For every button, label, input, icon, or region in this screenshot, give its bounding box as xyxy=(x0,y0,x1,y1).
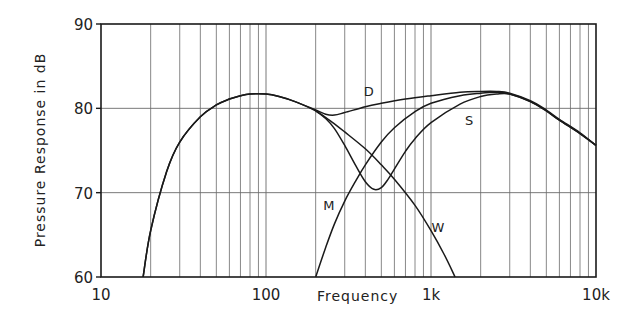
y-tick-labels: 60708090 xyxy=(74,16,93,287)
x-tick-label: 100 xyxy=(252,286,281,304)
y-tick-label: 70 xyxy=(74,185,93,203)
x-tick-label: 1k xyxy=(422,286,441,304)
y-tick-label: 60 xyxy=(74,269,93,287)
curve-label-s: S xyxy=(465,113,473,128)
curve-labels: DSMW xyxy=(323,84,473,236)
curve-label-m: M xyxy=(323,198,334,213)
curve-d xyxy=(143,91,596,277)
y-axis-title: Pressure Response in dB xyxy=(32,53,48,248)
y-tick-label: 80 xyxy=(74,100,93,118)
x-tick-label: 10 xyxy=(91,286,110,304)
x-tick-label: 10k xyxy=(582,286,610,304)
curve-m xyxy=(316,92,596,277)
frequency-response-chart: 60708090 101001k10k DSMW Frequency Press… xyxy=(0,0,641,319)
curves xyxy=(143,91,596,277)
curve-w xyxy=(143,94,455,277)
y-tick-label: 90 xyxy=(74,16,93,34)
plot-frame xyxy=(96,24,596,277)
curve-label-d: D xyxy=(364,84,374,99)
x-axis-title: Frequency xyxy=(317,288,398,304)
curve-label-w: W xyxy=(431,220,444,235)
